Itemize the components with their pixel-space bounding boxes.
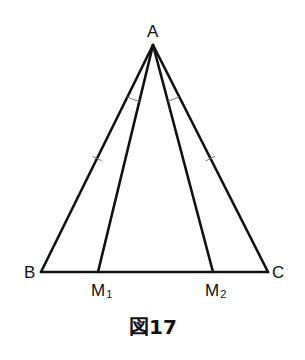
m2-main: M	[205, 281, 219, 300]
vertex-label-a: A	[147, 22, 159, 41]
angle-arc-m2ac	[168, 97, 179, 101]
vertex-label-m2: M2	[205, 281, 226, 300]
m1-main: M	[91, 281, 105, 300]
vertex-label-c: C	[272, 263, 284, 282]
figure-caption: 図17	[129, 315, 177, 339]
angle-arc-bam1	[127, 97, 139, 101]
segment-am2	[153, 45, 213, 272]
m1-subscript: 1	[106, 288, 112, 300]
m2-subscript: 2	[220, 288, 226, 300]
triangle-diagram: A B C M1 M2 図17	[0, 0, 305, 360]
vertex-label-b: B	[24, 263, 35, 282]
vertex-label-m1: M1	[91, 281, 112, 300]
segment-am1	[98, 45, 153, 272]
